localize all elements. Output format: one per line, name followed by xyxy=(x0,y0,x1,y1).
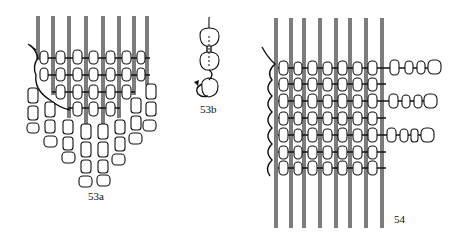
figure-54-drawing xyxy=(262,18,441,228)
figure-53a-drawing xyxy=(27,16,156,187)
figure-label-53b: 53b xyxy=(200,103,217,115)
bead-weaving-diagrams xyxy=(0,0,468,236)
figure-53b-drawing xyxy=(194,17,219,97)
figure-label-54: 54 xyxy=(394,213,405,225)
illustration-plate: 53a 53b 54 xyxy=(0,0,468,236)
figure-label-53a: 53a xyxy=(88,190,104,202)
